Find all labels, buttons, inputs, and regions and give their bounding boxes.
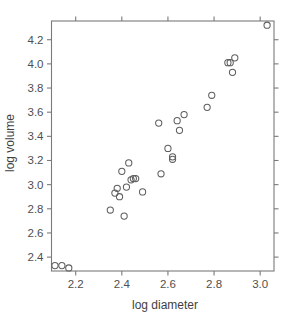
data-point-marker bbox=[165, 145, 171, 151]
data-point-marker bbox=[158, 171, 164, 177]
data-point-marker bbox=[126, 160, 132, 166]
data-point-marker bbox=[229, 69, 235, 75]
y-tick-label: 3.2 bbox=[28, 154, 44, 166]
data-point-marker bbox=[59, 262, 65, 268]
plot-frame bbox=[52, 21, 275, 271]
plot-box-border bbox=[52, 21, 275, 271]
data-point-marker bbox=[116, 194, 122, 200]
y-tick-label: 2.4 bbox=[28, 251, 45, 263]
x-tick-label: 2.8 bbox=[206, 278, 222, 290]
data-point-marker bbox=[204, 104, 210, 110]
y-tick-label: 3.6 bbox=[28, 106, 44, 118]
y-tick-label: 2.8 bbox=[28, 203, 44, 215]
y-tick-label: 2.6 bbox=[28, 227, 44, 239]
data-point-marker bbox=[52, 262, 58, 268]
data-point-marker bbox=[119, 168, 125, 174]
scatter-plot-figure: 2.22.42.62.83.0 2.42.62.83.03.23.43.63.8… bbox=[0, 0, 295, 319]
y-tick-label: 3.0 bbox=[28, 179, 44, 191]
y-axis-title: log volume bbox=[3, 114, 17, 172]
data-point-marker bbox=[156, 120, 162, 126]
y-tick-label: 3.8 bbox=[28, 82, 44, 94]
x-tick-label: 2.2 bbox=[68, 278, 84, 290]
data-point-marker bbox=[176, 127, 182, 133]
data-point-marker bbox=[121, 213, 127, 219]
data-point-marker bbox=[174, 118, 180, 124]
data-point-marker bbox=[264, 22, 270, 28]
data-points bbox=[52, 22, 270, 271]
data-point-marker bbox=[139, 189, 145, 195]
y-axis-tick-labels: 2.42.62.83.03.23.43.63.84.04.2 bbox=[28, 34, 45, 263]
data-point-marker bbox=[107, 207, 113, 213]
data-point-marker bbox=[209, 92, 215, 98]
x-axis-title: log diameter bbox=[132, 298, 198, 312]
data-point-marker bbox=[181, 112, 187, 118]
y-tick-label: 3.4 bbox=[28, 130, 45, 142]
data-point-marker bbox=[232, 55, 238, 61]
y-axis-ticks bbox=[47, 40, 279, 257]
y-tick-label: 4.0 bbox=[28, 58, 44, 70]
y-tick-label: 4.2 bbox=[28, 34, 44, 46]
x-tick-label: 2.6 bbox=[160, 278, 176, 290]
data-point-marker bbox=[66, 265, 72, 271]
data-point-marker bbox=[123, 184, 129, 190]
plot-canvas: 2.22.42.62.83.0 2.42.62.83.03.23.43.63.8… bbox=[0, 0, 295, 319]
x-axis-tick-labels: 2.22.42.62.83.0 bbox=[68, 278, 268, 290]
x-tick-label: 3.0 bbox=[252, 278, 268, 290]
x-tick-label: 2.4 bbox=[114, 278, 131, 290]
